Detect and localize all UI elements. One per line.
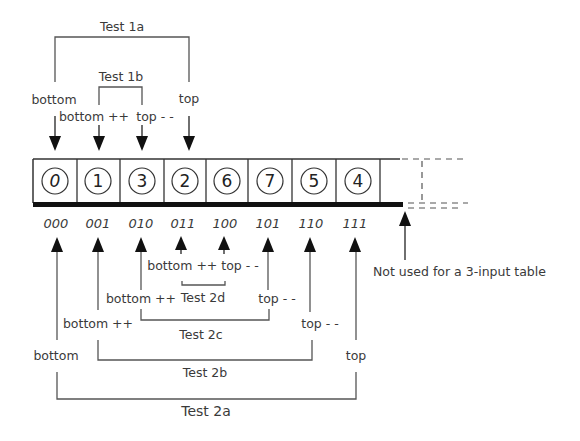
up-arrow-icon (304, 237, 316, 252)
table-cell-3: 2 (172, 168, 198, 194)
table-cell-0: 0 (42, 168, 68, 194)
index-label: 100 (213, 216, 238, 231)
gray-code-table-diagram: Test 1a Test 1b bottom top bottom ++ top… (0, 0, 580, 441)
up-arrow-icon (218, 236, 230, 254)
index-label: 010 (129, 216, 154, 231)
test-1a-top-label: top (179, 91, 200, 106)
index-label: 101 (256, 216, 281, 231)
index-label: 011 (171, 216, 196, 231)
test-1b-label: Test 1b (98, 69, 144, 84)
test-2c-bracket (141, 309, 269, 320)
svg-text:5: 5 (309, 171, 320, 191)
table-cell-6: 5 (301, 168, 327, 194)
up-arrow-icon (175, 236, 187, 254)
table-cell-4: 6 (214, 168, 240, 194)
test-2b-bracket (98, 340, 312, 360)
test-2b-top-label: top - - (301, 316, 338, 331)
test-2c-bottom-label: bottom ++ (106, 291, 176, 306)
test-1a-bottom-label: bottom (31, 92, 76, 107)
table-cell-2: 3 (129, 168, 155, 194)
test-2c-top-label: top - - (258, 291, 295, 306)
test-1b-bottom-label: bottom ++ (59, 109, 129, 124)
test-1a-label: Test 1a (99, 19, 144, 34)
svg-text:7: 7 (265, 171, 276, 191)
index-label: 110 (299, 216, 324, 231)
test-2d-label: Test 2d (180, 290, 225, 305)
test-1b-top-label: top - - (136, 109, 173, 124)
unused-note: Not used for a 3-input table (373, 264, 546, 279)
up-arrow-icon (349, 237, 361, 252)
svg-text:3: 3 (137, 171, 148, 191)
unused-slot-arrow-icon (399, 211, 411, 260)
up-arrow-icon (135, 237, 147, 252)
test-2b-bottom-label: bottom ++ (63, 316, 133, 331)
test-1b-bracket: Test 1b (98, 69, 144, 105)
up-arrow-icon (262, 237, 274, 252)
test-2b-label: Test 2b (182, 365, 228, 380)
test-2a-bottom-label: bottom (33, 348, 78, 363)
down-arrow-icon (136, 125, 148, 151)
down-arrow-icon (93, 125, 105, 151)
svg-text:6: 6 (222, 171, 233, 191)
svg-text:2: 2 (180, 171, 191, 191)
index-label: 001 (86, 216, 111, 231)
svg-text:0: 0 (50, 171, 61, 191)
svg-text:1: 1 (93, 171, 104, 191)
test-2c-label: Test 2c (178, 327, 223, 342)
table-cell-5: 7 (257, 168, 283, 194)
index-label: 000 (44, 216, 69, 231)
test-2a-top-label: top (346, 348, 367, 363)
up-arrow-icon (51, 237, 63, 252)
test-2d-bounds-label: bottom ++ top - - (147, 258, 259, 273)
svg-text:4: 4 (353, 171, 364, 191)
table-cell-1: 1 (85, 168, 111, 194)
down-arrow-icon (183, 116, 195, 151)
up-arrow-icon (92, 237, 104, 252)
index-label: 111 (343, 216, 368, 231)
test-2a-label: Test 2a (180, 403, 231, 419)
table-cell-7: 4 (345, 168, 371, 194)
test-2d-bracket (182, 281, 225, 285)
table-base-bar (33, 202, 403, 207)
